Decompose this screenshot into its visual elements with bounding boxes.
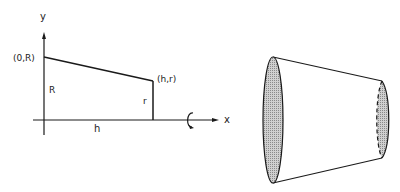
frustum-large-face [263,57,283,183]
h-label: h [94,124,100,134]
frustum-solid [263,57,389,183]
slant-segment [44,57,153,81]
y-axis-label: y [40,12,46,22]
diagram-canvas [0,0,400,192]
point-0-R-label: (0,R) [13,54,35,63]
rotation-arrow-icon [188,113,194,129]
x-axis-label: x [224,115,230,125]
r-label: r [143,97,147,106]
x-axis [33,118,219,122]
point-h-r-label: (h,r) [157,75,176,84]
R-label: R [49,86,55,95]
